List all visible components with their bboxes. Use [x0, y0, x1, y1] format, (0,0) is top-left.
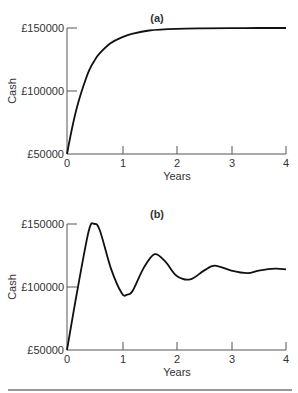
chart-a-xtick-1: 1	[120, 157, 126, 169]
chart-a-title: (a)	[150, 12, 164, 24]
chart-b-line	[67, 223, 286, 350]
chart-a-xtick-0: 0	[64, 157, 70, 169]
chart-a-xlabel: Years	[163, 170, 191, 182]
chart-a-xtick-3: 3	[229, 157, 235, 169]
chart-b-xtick-3: 3	[229, 353, 235, 365]
chart-a-ylabel: Cash	[6, 78, 18, 104]
chart-b-ytick-50000: £50000	[27, 344, 64, 356]
chart-a-line	[67, 28, 286, 154]
chart-a-ytick-100000: £100000	[21, 85, 64, 97]
chart-b-title: (b)	[150, 208, 164, 220]
chart-b: (b) £150000 £100000 £50000 0 1 2 3 4 Yea…	[6, 208, 289, 378]
chart-a-xtick-2: 2	[174, 157, 180, 169]
chart-b-xtick-0: 0	[64, 353, 70, 365]
chart-a: (a) £150000 £100000 £50000 0 1 2 3 4 Yea…	[6, 12, 289, 182]
chart-b-ytick-150000: £150000	[21, 218, 64, 230]
chart-b-xlabel: Years	[163, 366, 191, 378]
chart-b-ytick-100000: £100000	[21, 281, 64, 293]
chart-b-xtick-2: 2	[174, 353, 180, 365]
chart-b-ylabel: Cash	[6, 274, 18, 300]
chart-a-ytick-150000: £150000	[21, 22, 64, 34]
chart-a-ytick-50000: £50000	[27, 148, 64, 160]
chart-b-xtick-1: 1	[120, 353, 126, 365]
figure: (a) £150000 £100000 £50000 0 1 2 3 4 Yea…	[0, 0, 298, 393]
chart-a-xtick-4: 4	[283, 157, 289, 169]
chart-b-xtick-4: 4	[283, 353, 289, 365]
